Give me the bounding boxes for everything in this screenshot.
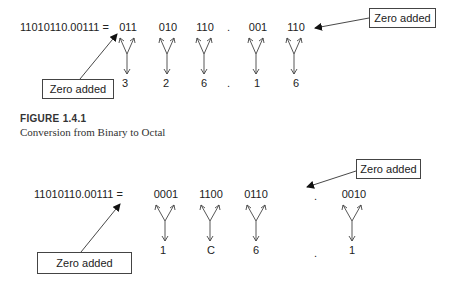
callout-pointers [80, 18, 369, 252]
split-arrows-fig1 [119, 38, 302, 74]
arrow-diagram [0, 0, 452, 288]
split-arrows-fig2 [155, 205, 362, 241]
